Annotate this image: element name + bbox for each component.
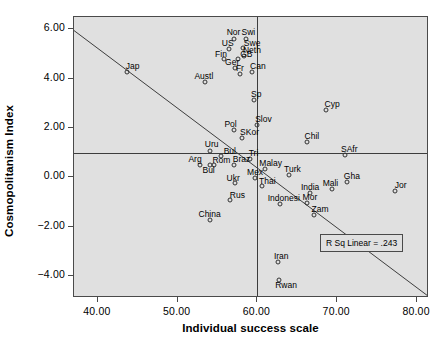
data-point-label: Jor — [395, 180, 407, 190]
data-point — [207, 149, 212, 154]
data-point-label: Swi — [241, 27, 255, 37]
x-axis-tick-label: 80.00 — [376, 305, 438, 317]
data-point-label: Cyp — [325, 99, 340, 109]
data-point-label: Arg — [188, 154, 201, 164]
data-point-label: Mali — [323, 178, 339, 188]
y-axis-tick — [68, 226, 73, 227]
data-point-label: Bul — [202, 165, 214, 175]
data-point-label: Chil — [305, 131, 320, 141]
data-point-label: Indonesi — [268, 193, 300, 203]
x-axis-title: Individual success scale — [73, 322, 428, 334]
y-axis-tick-label: 0.00 — [44, 169, 65, 181]
data-point-label: SAfr — [341, 144, 358, 154]
data-point-label: China — [199, 209, 221, 219]
x-axis-tick-label: 60.00 — [216, 305, 296, 317]
x-axis-tick — [97, 297, 98, 302]
x-axis-tick-label: 50.00 — [137, 305, 217, 317]
data-point-label: Jap — [126, 61, 140, 71]
y-axis-tick — [68, 275, 73, 276]
data-point-label: Pol — [224, 119, 236, 129]
data-point-label: Zam — [312, 204, 329, 214]
data-point-label: Slov — [255, 114, 272, 124]
r-squared-annotation: R Sq Linear = .243 — [320, 234, 403, 252]
y-axis-title: Cosmopolitanism Index — [0, 0, 20, 342]
data-point-label: Iran — [274, 251, 289, 261]
y-axis-tick — [68, 28, 73, 29]
data-point-label: Rwan — [275, 280, 297, 290]
data-point-label: Rus — [230, 190, 245, 200]
data-point-label: Uru — [205, 139, 219, 149]
y-axis-tick-label: 6.00 — [44, 21, 65, 33]
x-axis-tick-label: 40.00 — [57, 305, 137, 317]
data-point-label: Can — [250, 61, 266, 71]
data-point-label: SKor — [240, 127, 259, 137]
y-axis-tick — [68, 78, 73, 79]
plot-inner: JapNorSwiUSSweNethFinGBGerFrCanAustlSpCy… — [74, 17, 427, 296]
y-axis-tick-label: 4.00 — [44, 71, 65, 83]
x-axis-tick — [416, 297, 417, 302]
data-point-label: Austl — [194, 71, 213, 81]
y-axis-tick-label: −4.00 — [37, 268, 65, 280]
data-point-label: Mor — [303, 192, 318, 202]
data-point-label: GB — [240, 49, 252, 59]
x-axis-tick — [177, 297, 178, 302]
y-axis-tick — [68, 127, 73, 128]
x-axis-tick — [256, 297, 257, 302]
scatterplot-figure: Cosmopolitanism Index JapNorSwiUSSweNeth… — [0, 0, 438, 342]
x-axis-tick-label: 70.00 — [296, 305, 376, 317]
data-point-label: Rom — [212, 155, 230, 165]
data-point-label: Nor — [227, 27, 241, 37]
data-point-label: Gha — [344, 171, 360, 181]
y-axis-tick — [68, 176, 73, 177]
data-point-label: India — [301, 182, 319, 192]
data-point-label: Thai — [259, 176, 276, 186]
data-point-label: Braz — [233, 154, 250, 164]
data-point-label: Fr — [236, 63, 244, 73]
data-point-label: US — [222, 38, 234, 48]
y-axis-tick-label: 2.00 — [44, 120, 65, 132]
plot-area: JapNorSwiUSSweNethFinGBGerFrCanAustlSpCy… — [73, 16, 428, 297]
data-point-label: Sp — [251, 89, 261, 99]
data-point-label: Turk — [284, 164, 301, 174]
x-axis-tick — [336, 297, 337, 302]
data-point-label: Ukr — [227, 173, 240, 183]
y-axis-tick-label: −2.00 — [37, 219, 65, 231]
